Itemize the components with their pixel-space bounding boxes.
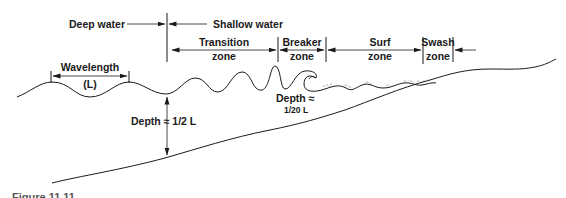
transition-zone-label-2: zone bbox=[212, 50, 236, 62]
deep-shallow-divider bbox=[127, 13, 207, 62]
depth-deep-label: Depth ≈ 1/2 L bbox=[131, 115, 197, 127]
swash-zone-label-2: zone bbox=[426, 50, 450, 62]
surf-zone-label: Surf bbox=[370, 36, 392, 48]
figure-caption: Figure 11.11 bbox=[12, 192, 75, 198]
wave-zone-diagram: Deep water Shallow water Transition zone… bbox=[0, 0, 566, 198]
transition-zone-label: Transition bbox=[199, 36, 249, 48]
depth-breaker-ratio: 1/20 L bbox=[284, 105, 308, 115]
breaker-zone-label: Breaker bbox=[282, 36, 321, 48]
breaker-zone-label-2: zone bbox=[290, 50, 314, 62]
surf-zone-label-2: zone bbox=[368, 50, 392, 62]
deep-water-label: Deep water bbox=[69, 18, 125, 30]
depth-breaker-label: Depth ≈ bbox=[276, 92, 315, 104]
wavelength-label: Wavelength bbox=[61, 61, 120, 73]
wavelength-symbol: (L) bbox=[83, 78, 96, 90]
swash-zone-label: Swash bbox=[421, 36, 454, 48]
shallow-water-label: Shallow water bbox=[213, 18, 283, 30]
sea-floor-profile bbox=[52, 59, 556, 183]
